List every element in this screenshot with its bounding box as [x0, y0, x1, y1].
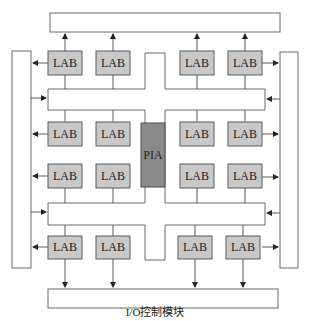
- svg-text:LAB: LAB: [101, 56, 125, 70]
- lab-block: LAB: [228, 122, 262, 146]
- io-block-right: [280, 52, 298, 268]
- svg-text:LAB: LAB: [53, 127, 77, 141]
- lab-block: LAB: [96, 51, 130, 75]
- io-block-top: [50, 13, 280, 32]
- svg-text:LAB: LAB: [101, 127, 125, 141]
- lab-block: LAB: [48, 122, 82, 146]
- svg-text:LAB: LAB: [185, 169, 209, 183]
- lab-block: LAB: [180, 164, 214, 188]
- lab-block: LAB: [226, 236, 260, 259]
- svg-text:PIA: PIA: [143, 148, 163, 162]
- svg-text:LAB: LAB: [233, 169, 257, 183]
- cpld-diagram: PIA LAB LAB LAB LAB LAB LAB LAB LAB LAB …: [0, 0, 310, 321]
- lab-block: LAB: [96, 236, 130, 259]
- svg-text:LAB: LAB: [231, 240, 255, 254]
- lab-block: LAB: [96, 164, 130, 188]
- svg-text:LAB: LAB: [183, 240, 207, 254]
- svg-text:LAB: LAB: [185, 127, 209, 141]
- svg-text:LAB: LAB: [233, 127, 257, 141]
- svg-text:LAB: LAB: [53, 56, 77, 70]
- lab-block: LAB: [48, 236, 82, 259]
- lab-block: LAB: [228, 51, 262, 75]
- lab-block: LAB: [178, 236, 212, 259]
- lab-block: LAB: [180, 51, 214, 75]
- lab-block: LAB: [48, 51, 82, 75]
- pia-block: PIA: [141, 123, 165, 187]
- lab-block: LAB: [228, 164, 262, 188]
- lab-block: LAB: [180, 122, 214, 146]
- svg-text:LAB: LAB: [53, 240, 77, 254]
- caption: I/O控制模块: [126, 305, 185, 318]
- svg-text:LAB: LAB: [185, 56, 209, 70]
- svg-text:LAB: LAB: [101, 169, 125, 183]
- lab-block: LAB: [48, 164, 82, 188]
- svg-text:LAB: LAB: [53, 169, 77, 183]
- svg-text:LAB: LAB: [233, 56, 257, 70]
- svg-text:LAB: LAB: [101, 240, 125, 254]
- lab-block: LAB: [96, 122, 130, 146]
- io-block-left: [12, 51, 31, 268]
